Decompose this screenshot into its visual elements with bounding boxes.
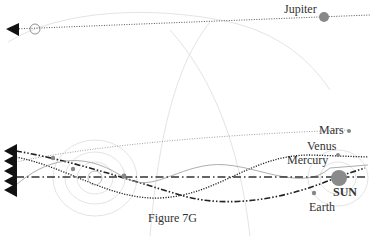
direction-arrows <box>4 144 17 197</box>
mars-label: Mars <box>319 123 344 137</box>
mercury-label: Mercury <box>287 153 328 167</box>
jupiter-label: Jupiter <box>284 2 317 16</box>
jupiter-direction-arrow <box>6 23 19 36</box>
mars-planet <box>347 129 351 133</box>
venus-planet <box>336 153 340 157</box>
figure-caption: Figure 7G <box>148 211 197 225</box>
earth-planet <box>312 191 316 195</box>
jupiter-trajectory: Jupiter <box>6 2 370 36</box>
venus-label: Venus <box>307 139 337 153</box>
earth-label: Earth <box>309 200 335 214</box>
jupiter-planet <box>319 12 329 22</box>
arrow-icon <box>4 183 17 197</box>
sun-body <box>331 170 347 186</box>
sun-label: SUN <box>333 185 357 199</box>
solar-system-helix-diagram: Jupiter Mars Venus Mercury SUN <box>0 0 370 236</box>
